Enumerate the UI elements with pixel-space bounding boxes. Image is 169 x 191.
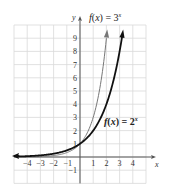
- curve-2x-arrow-icon: [119, 30, 124, 38]
- y-tick-label: 6: [73, 74, 77, 83]
- curves: [12, 30, 125, 159]
- exponential-functions-chart: xy −4−3−21234−1−1123456789 f(x) = 3xf(x)…: [0, 0, 169, 191]
- y-tick-label: 7: [73, 61, 77, 70]
- x-tick-label: 1: [91, 159, 95, 168]
- x-tick-label: −2: [49, 159, 58, 168]
- y-tick-label: 3: [73, 113, 77, 122]
- x-tick-label: −3: [36, 159, 45, 168]
- curve-labels: f(x) = 3xf(x) = 2x: [89, 12, 138, 128]
- y-tick-label: 5: [73, 87, 77, 96]
- x-tick-label: −4: [23, 159, 32, 168]
- y-tick-label: −1: [68, 166, 77, 175]
- y-axis-label: y: [71, 13, 76, 22]
- x-axis-label: x: [154, 160, 159, 169]
- y-tick-label: 8: [73, 47, 77, 56]
- x-tick-label: 2: [104, 159, 108, 168]
- label-2x: f(x) = 2x: [104, 116, 138, 128]
- y-tick-label: 9: [73, 34, 77, 43]
- y-tick-label: 2: [73, 127, 77, 136]
- y-tick-label: 4: [73, 100, 77, 109]
- x-tick-label: 3: [118, 159, 122, 168]
- label-3x: f(x) = 3x: [89, 12, 122, 24]
- x-tick-label: 4: [131, 159, 135, 168]
